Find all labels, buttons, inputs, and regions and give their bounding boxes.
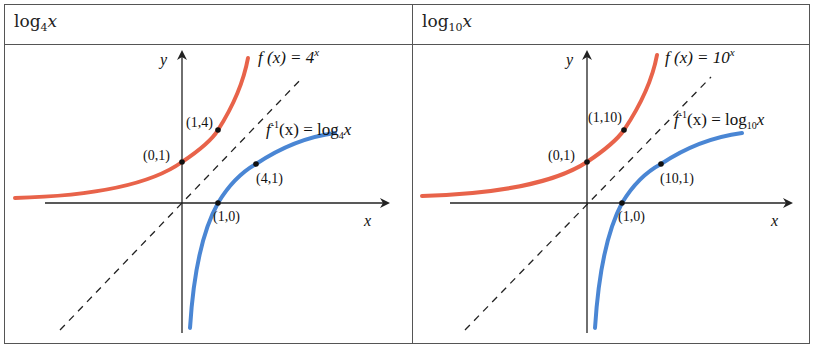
point-label: (1,0)	[213, 209, 240, 225]
graph-log4: y x f (x) = 4x f-1(x) = log4x (0,1) (1,4…	[15, 46, 388, 333]
point-0-1	[584, 159, 590, 165]
exponential-curve	[15, 58, 248, 198]
point-label: (10,1)	[660, 171, 694, 187]
point-label: (4,1)	[256, 171, 283, 187]
point-1-0	[619, 200, 625, 206]
graph-log10: y x f (x) = 10x f-1(x) = log10x (0,1) (1…	[422, 46, 791, 333]
point-label: (1,0)	[618, 209, 645, 225]
point-label: (1,4)	[186, 115, 213, 131]
x-axis-label: x	[363, 212, 371, 229]
graphs-canvas: y x f (x) = 4x f-1(x) = log4x (0,1) (1,4…	[0, 0, 814, 349]
exponential-curve	[422, 55, 657, 196]
log-curve	[595, 133, 742, 328]
point-10-1	[658, 161, 664, 167]
exp-function-label: f (x) = 10x	[665, 46, 735, 67]
y-axis-label: y	[158, 51, 168, 69]
point-label: (0,1)	[548, 148, 575, 164]
log-curve	[190, 133, 335, 328]
point-0-1	[179, 159, 185, 165]
point-label: (0,1)	[143, 148, 170, 164]
exp-function-label: f (x) = 4x	[258, 46, 319, 67]
x-axis-label: x	[770, 212, 778, 229]
point-1-4	[215, 127, 221, 133]
log-function-label: f-1(x) = log4x	[266, 119, 352, 141]
y-axis-label: y	[564, 51, 574, 69]
log-function-label: f-1(x) = log10x	[674, 109, 765, 131]
point-label: (1,10)	[588, 110, 622, 126]
point-4-1	[253, 161, 259, 167]
point-1-0	[215, 200, 221, 206]
point-1-10	[621, 127, 627, 133]
